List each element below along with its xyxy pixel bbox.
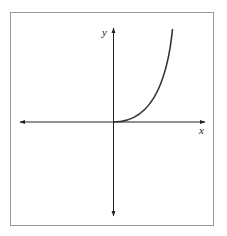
- function-curve: [114, 29, 173, 122]
- x-axis-label: x: [198, 124, 204, 136]
- graph: y x: [0, 0, 227, 236]
- y-axis-label: y: [101, 26, 107, 38]
